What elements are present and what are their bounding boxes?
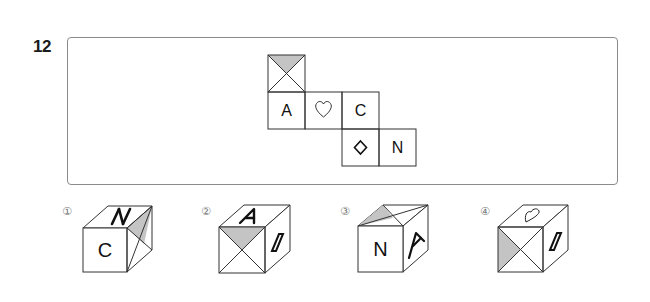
option-1-front-c: C [98, 239, 112, 261]
net-label-n: N [392, 139, 404, 156]
heart-icon [316, 101, 332, 117]
option-2-cube[interactable] [219, 205, 290, 273]
option-1-cube[interactable] [83, 206, 152, 272]
net-cell-diamond [342, 129, 379, 166]
option-3-front-n: N [373, 238, 387, 260]
figure-canvas: A C N ① C ② ③ [0, 0, 650, 302]
net-cell-x-shaded [268, 55, 305, 92]
option-2-number: ② [201, 205, 211, 218]
diamond-icon [355, 141, 367, 154]
net-label-a: A [281, 102, 292, 119]
option-1-number: ① [62, 205, 72, 218]
net-cell-heart [305, 92, 342, 129]
net-label-c: C [355, 102, 367, 119]
option-3-number: ③ [340, 205, 350, 218]
option-3-cube[interactable] [358, 205, 428, 272]
option-4-cube[interactable] [498, 205, 568, 272]
option-4-number: ④ [480, 205, 490, 218]
